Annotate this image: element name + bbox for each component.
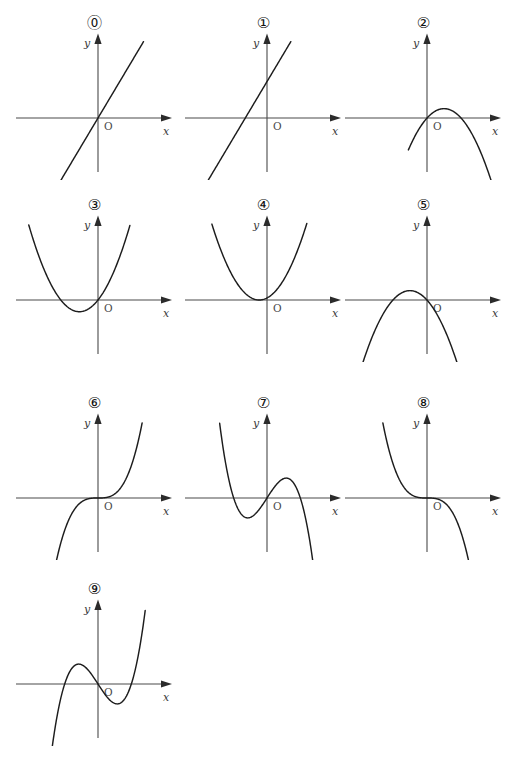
graph-label-0: ⓪ bbox=[10, 16, 179, 31]
x-axis-arrow-icon bbox=[490, 296, 501, 303]
y-axis-arrow-icon bbox=[94, 216, 101, 227]
graph-label-9: ⑨ bbox=[10, 582, 179, 597]
graph-label-5: ⑤ bbox=[339, 198, 508, 213]
y-axis-arrow-icon bbox=[423, 414, 430, 425]
origin-label: O bbox=[273, 500, 282, 512]
graph-label-1: ① bbox=[179, 16, 348, 31]
graph-panel-3: ③xyO bbox=[10, 182, 179, 362]
origin-label: O bbox=[433, 500, 442, 512]
y-axis-label: y bbox=[412, 37, 420, 50]
graph-plot-6: xyO bbox=[10, 410, 179, 560]
x-axis-label: x bbox=[332, 307, 339, 320]
y-axis-arrow-icon bbox=[94, 414, 101, 425]
graph-plot-7: xyO bbox=[179, 410, 348, 560]
graph-plot-5: xyO bbox=[339, 212, 508, 362]
x-axis-arrow-icon bbox=[161, 680, 172, 687]
origin-label: O bbox=[433, 302, 442, 314]
y-axis-label: y bbox=[252, 37, 260, 50]
curve-linear-0 bbox=[50, 42, 143, 180]
graph-plot-9: xyO bbox=[10, 596, 179, 746]
graph-plot-4: xyO bbox=[179, 212, 348, 362]
y-axis-arrow-icon bbox=[94, 600, 101, 611]
origin-label: O bbox=[104, 302, 113, 314]
curve-quadratic-5 bbox=[359, 291, 458, 362]
graph-label-3: ③ bbox=[10, 198, 179, 213]
x-axis-label: x bbox=[332, 125, 339, 138]
x-axis-label: x bbox=[492, 505, 499, 518]
graph-panel-0: ⓪xyO bbox=[10, 0, 179, 180]
graph-label-2: ② bbox=[339, 16, 508, 31]
graph-label-7: ⑦ bbox=[179, 396, 348, 411]
graph-label-8: ⑧ bbox=[339, 396, 508, 411]
x-axis-label: x bbox=[492, 125, 499, 138]
curve-quadratic-2 bbox=[408, 109, 495, 180]
x-axis-label: x bbox=[163, 307, 170, 320]
graph-panel-1: ①xyO bbox=[179, 0, 348, 180]
x-axis-label: x bbox=[163, 125, 170, 138]
x-axis-arrow-icon bbox=[490, 114, 501, 121]
origin-label: O bbox=[273, 120, 282, 132]
x-axis-label: x bbox=[163, 505, 170, 518]
graph-panel-2: ②xyO bbox=[339, 0, 508, 180]
y-axis-arrow-icon bbox=[263, 216, 270, 227]
graph-plot-1: xyO bbox=[179, 30, 348, 180]
curve-linear-1 bbox=[202, 42, 291, 180]
origin-label: O bbox=[433, 120, 442, 132]
y-axis-label: y bbox=[412, 219, 420, 232]
y-axis-label: y bbox=[412, 417, 420, 430]
y-axis-arrow-icon bbox=[423, 34, 430, 45]
x-axis-arrow-icon bbox=[161, 296, 172, 303]
graph-plot-8: xyO bbox=[339, 410, 508, 560]
origin-label: O bbox=[273, 302, 282, 314]
origin-label: O bbox=[104, 686, 113, 698]
graph-plot-2: xyO bbox=[339, 30, 508, 180]
graph-panel-7: ⑦xyO bbox=[179, 380, 348, 560]
graph-panel-8: ⑧xyO bbox=[339, 380, 508, 560]
origin-label: O bbox=[104, 500, 113, 512]
graph-panel-6: ⑥xyO bbox=[10, 380, 179, 560]
y-axis-arrow-icon bbox=[263, 34, 270, 45]
y-axis-label: y bbox=[83, 417, 91, 430]
graph-plot-3: xyO bbox=[10, 212, 179, 362]
y-axis-label: y bbox=[83, 37, 91, 50]
y-axis-label: y bbox=[83, 219, 91, 232]
graph-grid: ⓪xyO①xyO②xyO③xyO④xyO⑤xyO⑥xyO⑦xyO⑧xyO⑨xyO bbox=[0, 0, 508, 758]
curve-quadratic-3 bbox=[29, 225, 130, 312]
graph-label-4: ④ bbox=[179, 198, 348, 213]
origin-label: O bbox=[104, 120, 113, 132]
x-axis-label: x bbox=[163, 691, 170, 704]
y-axis-label: y bbox=[252, 417, 260, 430]
graph-panel-9: ⑨xyO bbox=[10, 566, 179, 746]
x-axis-label: x bbox=[492, 307, 499, 320]
graph-plot-0: xyO bbox=[10, 30, 179, 180]
y-axis-arrow-icon bbox=[423, 216, 430, 227]
x-axis-arrow-icon bbox=[490, 494, 501, 501]
graph-panel-5: ⑤xyO bbox=[339, 182, 508, 362]
x-axis-arrow-icon bbox=[161, 494, 172, 501]
y-axis-label: y bbox=[252, 219, 260, 232]
graph-label-6: ⑥ bbox=[10, 396, 179, 411]
x-axis-label: x bbox=[332, 505, 339, 518]
graph-panel-4: ④xyO bbox=[179, 182, 348, 362]
y-axis-label: y bbox=[83, 603, 91, 616]
y-axis-arrow-icon bbox=[263, 414, 270, 425]
curve-quadratic-4 bbox=[212, 224, 307, 300]
y-axis-arrow-icon bbox=[94, 34, 101, 45]
x-axis-arrow-icon bbox=[161, 114, 172, 121]
